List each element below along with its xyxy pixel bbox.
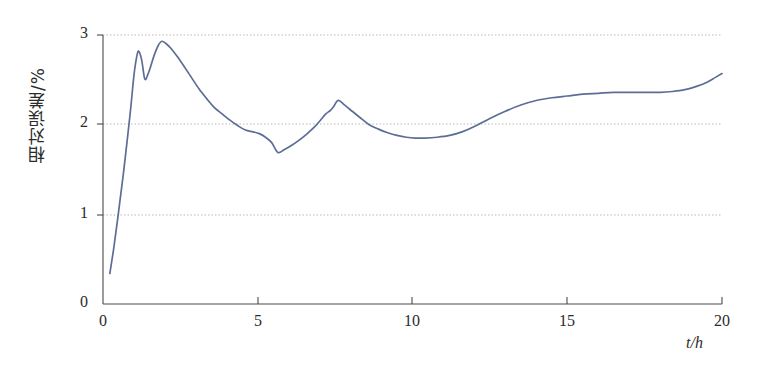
gridlines xyxy=(103,35,722,215)
plot-svg xyxy=(0,0,770,374)
data-series-line xyxy=(110,41,722,273)
chart-container: 相对误差/% t/h 3 2 1 0 0 5 10 15 20 xyxy=(0,0,770,374)
data-series-group xyxy=(110,41,722,273)
